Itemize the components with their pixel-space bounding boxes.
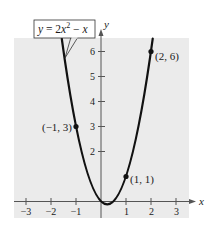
point-label: (−1, 3) [42, 121, 72, 134]
x-tick-label: 3 [174, 206, 179, 217]
svg-text:y = 2x2 − x: y = 2x2 − x [37, 21, 88, 36]
point-marker [148, 49, 153, 54]
y-axis-label: y [103, 18, 109, 30]
x-tick-label: −2 [46, 206, 57, 217]
equation-x2: x [81, 23, 88, 35]
point-label: (2, 6) [155, 50, 179, 63]
y-tick-label: 4 [90, 96, 95, 107]
equation-eq: = 2 [43, 23, 61, 35]
x-tick-label: 1 [124, 206, 129, 217]
x-tick-label: −1 [71, 206, 82, 217]
point-marker [123, 174, 128, 179]
x-axis-label: x [198, 195, 204, 207]
y-tick-label: 2 [90, 146, 95, 157]
y-tick-label: 5 [90, 71, 95, 82]
y-tick-label: 3 [90, 121, 95, 132]
y-tick-label: 6 [90, 46, 95, 57]
point-marker [73, 124, 78, 129]
point-label: (1, 1) [130, 173, 154, 186]
parabola-chart: −3 −2 −1 1 2 3 x 2 3 4 5 6 y [0, 0, 219, 226]
equation-label: y = 2x2 − x [34, 20, 95, 38]
x-tick-label: −3 [21, 206, 32, 217]
equation-minus: − [70, 23, 82, 35]
x-axis-arrow-icon [189, 199, 196, 204]
y-axis-arrow-icon [99, 29, 104, 36]
x-tick-label: 2 [149, 206, 154, 217]
